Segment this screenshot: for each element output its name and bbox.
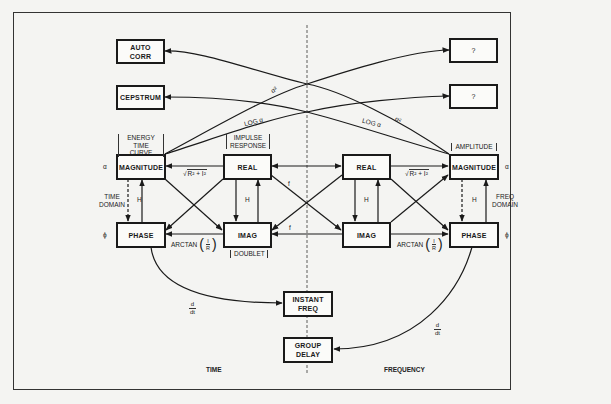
frequency-axis-label: FREQUENCY — [384, 366, 425, 374]
time-phi-symbol: ϕ — [103, 231, 107, 239]
unknown-box-2[interactable]: ? — [449, 84, 498, 109]
time-phase-box[interactable]: PHASE — [116, 222, 166, 248]
freq-phase-box[interactable]: PHASE — [449, 222, 499, 248]
instant-freq-box[interactable]: INSTANT FREQ — [283, 291, 333, 317]
derivative-label-freq: d dt — [434, 322, 441, 337]
hilbert-label-freq-real-imag: H — [364, 196, 369, 204]
fourier-label-lower: f — [289, 224, 291, 232]
doublet-annotation: DOUBLET — [230, 250, 268, 258]
sqrt-label-time: √R² + I² — [183, 170, 207, 177]
hilbert-label-freq-mag-phase: H — [472, 196, 477, 204]
freq-alpha-symbol: α — [505, 163, 509, 171]
hilbert-label-time-real-imag: H — [245, 196, 250, 204]
derivative-label-time: d dt — [189, 301, 196, 316]
group-delay-box[interactable]: GROUP DELAY — [283, 337, 333, 363]
arctan-label-freq: ARCTAN ( IR ) — [397, 237, 443, 251]
freq-imag-box[interactable]: IMAG — [342, 222, 391, 248]
auto-corr-box[interactable]: AUTO CORR — [116, 39, 165, 64]
arctan-label-time: ARCTAN ( IR ) — [171, 237, 217, 251]
freq-magnitude-box[interactable]: MAGNITUDE — [449, 154, 499, 180]
time-alpha-symbol: α — [103, 163, 107, 171]
hilbert-label-time-mag-phase: H — [137, 196, 142, 204]
energy-time-curve-annotation: ENERGY TIME CURVE — [118, 134, 164, 157]
cepstrum-box[interactable]: CEPSTRUM — [116, 85, 165, 110]
sqrt-label-freq: √R² + I² — [405, 170, 429, 177]
time-magnitude-box[interactable]: MAGNITUDE — [116, 154, 166, 180]
amplitude-annotation: AMPLITUDE — [451, 143, 497, 151]
freq-domain-label: FREQ DOMAIN — [491, 193, 519, 209]
time-imag-box[interactable]: IMAG — [223, 222, 272, 248]
fourier-label-upper: f — [288, 180, 290, 188]
time-axis-label: TIME — [206, 366, 222, 374]
time-real-box[interactable]: REAL — [223, 154, 272, 180]
freq-real-box[interactable]: REAL — [342, 154, 391, 180]
impulse-response-annotation: IMPULSE RESPONSE — [226, 134, 270, 149]
freq-phi-symbol: ϕ — [505, 231, 509, 239]
time-domain-label: TIME DOMAIN — [99, 193, 125, 209]
unknown-box-1[interactable]: ? — [449, 38, 498, 63]
